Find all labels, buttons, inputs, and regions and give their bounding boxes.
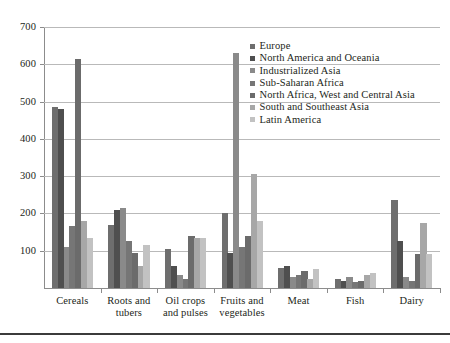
bar-group: [165, 27, 206, 288]
bar: [143, 245, 149, 288]
legend-label: South and Southeast Asia: [260, 101, 369, 113]
x-tick-mark: [327, 289, 328, 293]
legend-swatch-icon: [250, 68, 255, 73]
y-tick-label: 200: [2, 208, 36, 219]
legend-label: North Africa, West and Central Asia: [260, 89, 415, 101]
bar: [87, 238, 93, 288]
bar: [200, 238, 206, 288]
legend-item: North Africa, West and Central Asia: [250, 89, 415, 101]
legend-swatch-icon: [250, 93, 255, 98]
bar: [426, 254, 432, 288]
bottom-rule: [0, 333, 450, 335]
legend-label: Sub-Saharan Africa: [260, 77, 344, 89]
bar: [257, 221, 263, 288]
y-tick-label: 500: [2, 97, 36, 108]
bar: [313, 269, 319, 288]
legend-item: Sub-Saharan Africa: [250, 77, 415, 89]
legend-label: Europe: [260, 40, 291, 52]
legend-swatch-icon: [250, 105, 255, 110]
legend-item: South and Southeast Asia: [250, 101, 415, 113]
y-tick-label: 400: [2, 134, 36, 145]
y-tick-label: 300: [2, 171, 36, 182]
legend-item: Latin America: [250, 114, 415, 126]
x-category-label: Dairy: [377, 295, 446, 307]
y-tick-label: 100: [2, 246, 36, 257]
x-tick-mark: [101, 289, 102, 293]
x-tick-mark: [270, 289, 271, 293]
y-tick-label: 700: [2, 22, 36, 33]
legend-item: Industrialized Asia: [250, 65, 415, 77]
legend-label: Latin America: [260, 114, 322, 126]
bar-group: [108, 27, 149, 288]
legend-swatch-icon: [250, 81, 255, 86]
legend-swatch-icon: [250, 117, 255, 122]
legend-label: Industrialized Asia: [260, 65, 341, 77]
bar-chart: 100200300400500600700 CerealsRoots andtu…: [0, 0, 450, 343]
x-tick-mark: [157, 289, 158, 293]
x-tick-mark: [383, 289, 384, 293]
legend-item: Europe: [250, 40, 415, 52]
chart-legend: EuropeNorth America and OceaniaIndustria…: [250, 40, 415, 126]
x-tick-mark: [440, 289, 441, 293]
legend-item: North America and Oceania: [250, 52, 415, 64]
bar: [370, 273, 376, 288]
legend-swatch-icon: [250, 44, 255, 49]
bar-group: [52, 27, 93, 288]
x-tick-mark: [214, 289, 215, 293]
y-tick-label: 600: [2, 59, 36, 70]
legend-swatch-icon: [250, 56, 255, 61]
x-axis-line: [44, 288, 441, 289]
legend-label: North America and Oceania: [260, 52, 380, 64]
